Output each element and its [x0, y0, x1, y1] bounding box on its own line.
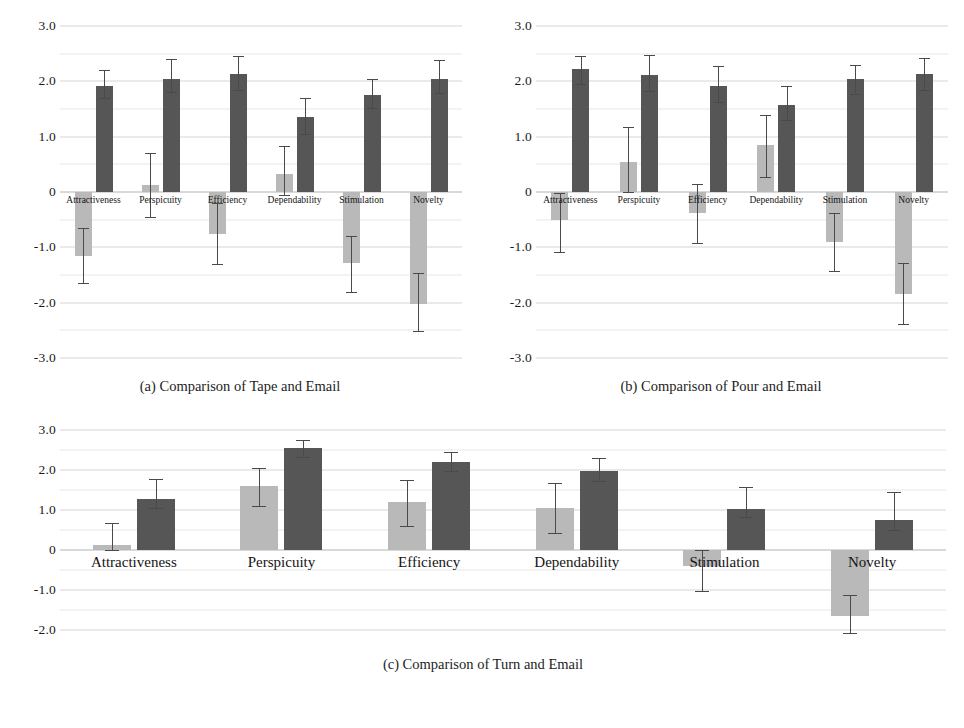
error-cap-lower [760, 177, 771, 178]
error-cap-upper [367, 79, 378, 80]
error-bar [284, 146, 285, 195]
error-cap-upper [346, 236, 357, 237]
y-tick-label: -2.0 [510, 295, 532, 311]
error-cap-lower [850, 94, 861, 95]
error-cap-upper [760, 115, 771, 116]
error-cap-lower [252, 506, 266, 507]
bar-email-efficiency [432, 462, 470, 550]
error-cap-lower [575, 84, 586, 85]
error-cap-upper [644, 55, 655, 56]
error-cap-lower [695, 591, 709, 592]
y-tick-label: 0 [49, 542, 56, 558]
error-cap-lower [145, 217, 156, 218]
y-tick-label: 2.0 [515, 73, 532, 89]
error-cap-lower [444, 471, 458, 472]
bar-group: Dependability [742, 26, 811, 358]
error-bar [894, 492, 895, 530]
error-cap-lower [105, 550, 119, 551]
error-cap-upper [850, 65, 861, 66]
error-cap-lower [212, 264, 223, 265]
error-cap-upper [781, 86, 792, 87]
error-cap-lower [367, 108, 378, 109]
error-bar [746, 487, 747, 517]
bar-group: Attractiveness [536, 26, 605, 358]
error-bar [83, 228, 84, 283]
bar-group: Dependability [261, 26, 328, 358]
category-label-dependability: Dependability [268, 195, 322, 205]
y-tick-label: 1.0 [515, 129, 532, 145]
error-cap-lower [644, 91, 655, 92]
error-cap-upper [692, 184, 703, 185]
y-tick-label: 3.0 [39, 18, 56, 34]
bar-email-attractiveness [96, 86, 113, 192]
error-bar [903, 263, 904, 324]
error-bar [718, 66, 719, 103]
y-tick-label: -1.0 [510, 239, 532, 255]
error-cap-upper [444, 452, 458, 453]
y-tick-label: 2.0 [39, 462, 56, 478]
error-cap-lower [887, 530, 901, 531]
error-cap-upper [548, 483, 562, 484]
y-tick-label: 1.0 [39, 129, 56, 145]
error-cap-upper [413, 273, 424, 274]
y-tick-label: -2.0 [34, 295, 56, 311]
error-cap-lower [898, 324, 909, 325]
error-cap-lower [434, 93, 445, 94]
bar-group: Stimulation [651, 430, 799, 642]
error-bar [766, 115, 767, 177]
error-bar [787, 86, 788, 120]
error-cap-upper [739, 487, 753, 488]
error-bar [112, 523, 113, 550]
error-cap-upper [252, 468, 266, 469]
y-tick-label: -2.0 [34, 622, 56, 638]
category-label-dependability: Dependability [534, 554, 619, 571]
error-cap-lower [843, 633, 857, 634]
error-bar [156, 479, 157, 508]
error-bar [855, 65, 856, 94]
bar-email-perspicuity [641, 75, 658, 192]
error-cap-lower [554, 252, 565, 253]
bar-email-stimulation [364, 95, 381, 192]
error-cap-upper [105, 523, 119, 524]
bar-group: Perspicuity [127, 26, 194, 358]
error-cap-lower [713, 102, 724, 103]
error-bar [581, 56, 582, 84]
error-cap-lower [300, 134, 311, 135]
error-bar [555, 483, 556, 533]
error-bar [451, 452, 452, 471]
y-tick-label: 2.0 [39, 73, 56, 89]
y-tick-label: 0 [525, 184, 532, 200]
bar-group: Perspicuity [605, 26, 674, 358]
error-cap-upper [279, 146, 290, 147]
error-bar [259, 468, 260, 506]
panel-b-plot-area: AttractivenessPerspicuityEfficiencyDepen… [536, 26, 948, 358]
bar-group: Stimulation [328, 26, 395, 358]
error-cap-upper [78, 228, 89, 229]
error-bar [924, 58, 925, 90]
error-bar [599, 458, 600, 481]
bar-email-stimulation [847, 79, 864, 192]
error-cap-upper [434, 60, 445, 61]
y-tick-label: -1.0 [34, 239, 56, 255]
panel-b-y-axis: 3.02.01.00-1.0-2.0-3.0 [490, 26, 536, 358]
category-label-attractiveness: Attractiveness [91, 554, 177, 571]
error-bar [372, 79, 373, 108]
panel-c-y-axis: 3.02.01.00-1.0-2.0 [14, 430, 60, 642]
panel-a-y-axis: 3.02.01.00-1.0-2.0-3.0 [14, 26, 60, 358]
error-bar [171, 59, 172, 92]
error-cap-lower [739, 517, 753, 518]
bar-email-efficiency [230, 74, 247, 192]
error-cap-lower [346, 292, 357, 293]
error-cap-lower [781, 120, 792, 121]
bar-email-attractiveness [572, 69, 589, 192]
error-cap-upper [623, 127, 634, 128]
bar-email-novelty [916, 74, 933, 192]
panel-b-caption: (b) Comparison of Pour and Email [490, 378, 952, 395]
error-bar [702, 550, 703, 591]
error-cap-upper [843, 595, 857, 596]
bar-group: Novelty [395, 26, 462, 358]
error-cap-upper [554, 193, 565, 194]
error-cap-lower [829, 271, 840, 272]
bar-group: Efficiency [673, 26, 742, 358]
error-cap-lower [296, 457, 310, 458]
